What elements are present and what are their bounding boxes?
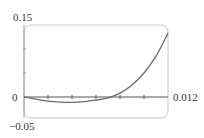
y-max-label: 0.15 xyxy=(13,12,32,23)
plot-frame xyxy=(24,25,168,118)
x-max-label: 0.012 xyxy=(173,92,198,103)
origin-label: 0 xyxy=(12,92,18,103)
y-min-label: −0.05 xyxy=(9,121,34,132)
data-curve xyxy=(24,33,168,102)
